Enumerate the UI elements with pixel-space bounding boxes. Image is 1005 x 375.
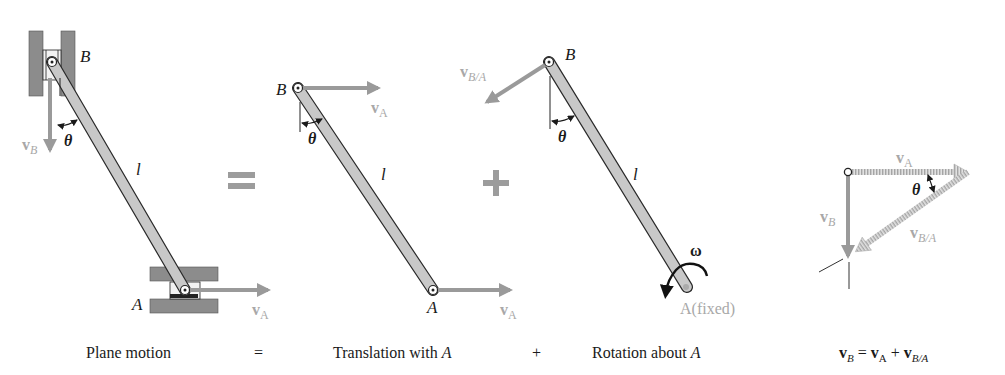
wall-left-B xyxy=(29,31,43,96)
panel-vector-triangle: vA vB vB/A θ xyxy=(819,149,973,289)
pin-A-center xyxy=(432,289,435,292)
label-theta: θ xyxy=(558,128,567,145)
eq-vBA-sub: B/A xyxy=(912,352,929,364)
eq-vA-sub: A xyxy=(879,352,887,364)
pin-B-center xyxy=(51,61,54,64)
link-bar-fill xyxy=(298,88,433,290)
label-B: B xyxy=(80,47,91,66)
caption-plus: + xyxy=(532,344,541,362)
caption-translation-text: Translation with xyxy=(333,344,442,361)
pin-B-center xyxy=(297,87,300,90)
label-theta: θ xyxy=(64,132,73,149)
fixed-pivot-A xyxy=(683,284,689,290)
panel-translation: B A l θ vA vA xyxy=(276,80,517,322)
theta-arc xyxy=(928,175,934,192)
label-theta: θ xyxy=(912,181,921,198)
caption-translation-var: A xyxy=(442,344,452,361)
theta-arc xyxy=(552,116,574,121)
label-vBA: vB/A xyxy=(460,63,487,84)
origin-point xyxy=(844,168,851,175)
label-A: A xyxy=(131,295,143,314)
slide-bottom-A xyxy=(150,299,218,313)
theta-arc xyxy=(58,120,77,125)
eq-vBA: v xyxy=(904,344,912,361)
caption-rotation-var: A xyxy=(691,344,701,361)
label-vBA: vB/A xyxy=(910,224,937,245)
label-B: B xyxy=(565,45,576,64)
label-B: B xyxy=(276,80,287,99)
label-omega: ω xyxy=(690,242,702,259)
label-vB: vB xyxy=(22,136,38,157)
caption-equation: vB = vA + vB/A xyxy=(839,344,928,364)
label-vB: vB xyxy=(820,208,836,229)
label-vA-bottom: vA xyxy=(500,301,517,322)
pin-B-center xyxy=(548,61,551,64)
label-vA: vA xyxy=(896,149,913,170)
reference-line-slanted xyxy=(819,259,843,272)
eq-equals: = xyxy=(854,344,871,361)
relative-velocity-diagram: B A l θ vB vA B A l θ vA vA xyxy=(0,0,1005,375)
label-l: l xyxy=(633,165,638,184)
link-bar-fill xyxy=(52,62,185,290)
vA-vector xyxy=(850,169,956,175)
caption-rotation-text: Rotation about xyxy=(592,344,691,361)
vBA-arrow xyxy=(487,65,545,102)
label-l: l xyxy=(381,165,386,184)
caption-plane-motion: Plane motion xyxy=(86,344,171,362)
label-l: l xyxy=(136,160,141,179)
label-vA: vA xyxy=(252,301,269,322)
caption-rotation: Rotation about A xyxy=(592,344,700,362)
pin-A-center xyxy=(184,289,187,292)
label-vA-top: vA xyxy=(371,99,388,120)
link-bar-fill xyxy=(549,62,687,287)
label-theta: θ xyxy=(308,130,317,147)
caption-equals: = xyxy=(254,344,263,362)
plus-operator xyxy=(483,170,509,196)
vBA-vector xyxy=(851,165,973,258)
caption-translation: Translation with A xyxy=(333,344,452,362)
eq-plus: + xyxy=(887,344,904,361)
eq-vB: v xyxy=(839,344,847,361)
label-A-fixed: A(fixed) xyxy=(680,300,735,318)
eq-vB-sub: B xyxy=(847,352,854,364)
eq-vA: v xyxy=(871,344,879,361)
equals-operator xyxy=(228,172,255,189)
label-A: A xyxy=(426,298,438,317)
